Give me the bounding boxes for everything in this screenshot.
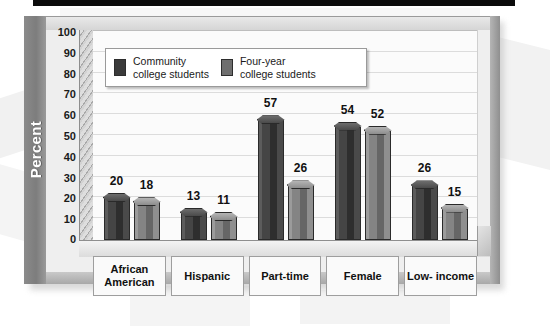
bar-value-label: 13 bbox=[187, 190, 200, 202]
bar-body bbox=[258, 120, 284, 240]
y-tick-30: 30 bbox=[64, 172, 76, 183]
bar-part-time-four-year[interactable]: 26 bbox=[288, 185, 314, 240]
y-tick-10: 10 bbox=[64, 214, 76, 225]
y-axis-tick-column: 100 90 80 70 60 50 40 30 20 10 0 bbox=[46, 30, 80, 240]
category-part-time: Part-time bbox=[249, 256, 322, 296]
bar-value-label: 11 bbox=[217, 194, 230, 206]
legend-label-community: Community college students bbox=[133, 55, 209, 80]
plot-top-edge bbox=[93, 30, 477, 31]
bar-body bbox=[134, 202, 160, 240]
bar-female-four-year[interactable]: 52 bbox=[365, 131, 391, 240]
legend-swatch-icon-four-year bbox=[221, 59, 233, 76]
y-tick-90: 90 bbox=[64, 47, 76, 58]
bar-value-label: 15 bbox=[448, 186, 461, 198]
bar-body bbox=[181, 213, 207, 240]
bar-african-american-community[interactable]: 20 bbox=[104, 198, 130, 240]
bar-body bbox=[442, 209, 468, 241]
bar-hispanic-four-year[interactable]: 11 bbox=[211, 217, 237, 240]
bar-body bbox=[412, 185, 438, 240]
frame-top-bevel bbox=[24, 16, 500, 31]
bar-group-low-income: 26 15 bbox=[401, 185, 478, 240]
gridline-60 bbox=[93, 113, 477, 114]
plot-region: 100 90 80 70 60 50 40 30 20 10 0 bbox=[46, 30, 490, 272]
bar-body bbox=[335, 127, 361, 240]
legend-label-four-year: Four-year college students bbox=[240, 55, 316, 80]
bar-part-time-community[interactable]: 57 bbox=[258, 120, 284, 240]
y-tick-60: 60 bbox=[64, 110, 76, 121]
plot-floor-slab bbox=[79, 240, 490, 257]
bar-value-label: 26 bbox=[294, 162, 307, 174]
x-axis-category-row: African American Hispanic Part-time Fema… bbox=[93, 256, 477, 296]
chart-3d-frame: Percent 100 90 80 70 60 50 40 30 20 10 0 bbox=[24, 16, 500, 284]
bar-value-label: 18 bbox=[140, 179, 153, 191]
legend-item-four-year[interactable]: Four-year college students bbox=[221, 55, 316, 80]
category-hispanic: Hispanic bbox=[171, 256, 244, 296]
bar-group-african-american: 20 18 bbox=[93, 198, 170, 240]
y-tick-20: 20 bbox=[64, 193, 76, 204]
bar-group-female: 54 52 bbox=[324, 127, 401, 240]
bar-value-label: 54 bbox=[341, 104, 354, 116]
category-african-american: African American bbox=[93, 256, 166, 296]
legend-swatch-icon-community bbox=[114, 59, 126, 76]
y-tick-0: 0 bbox=[70, 234, 76, 245]
y-tick-50: 50 bbox=[64, 131, 76, 142]
chart-legend: Community college students Four-year col… bbox=[105, 48, 367, 87]
bar-value-label: 57 bbox=[264, 97, 277, 109]
bar-low-income-four-year[interactable]: 15 bbox=[442, 209, 468, 241]
y-tick-100: 100 bbox=[58, 27, 76, 38]
category-low-income: Low- income bbox=[404, 256, 477, 296]
bar-hispanic-community[interactable]: 13 bbox=[181, 213, 207, 240]
frame-right-bevel bbox=[490, 16, 500, 284]
bar-value-label: 52 bbox=[371, 108, 384, 120]
bar-group-part-time: 57 26 bbox=[247, 120, 324, 240]
bar-body bbox=[365, 131, 391, 240]
bar-value-label: 26 bbox=[418, 162, 431, 174]
y-tick-80: 80 bbox=[64, 68, 76, 79]
bar-group-hispanic: 13 11 bbox=[170, 213, 247, 240]
bar-african-american-four-year[interactable]: 18 bbox=[134, 202, 160, 240]
y-axis-title: Percent bbox=[27, 121, 44, 178]
bar-body bbox=[288, 185, 314, 240]
bar-female-community[interactable]: 54 bbox=[335, 127, 361, 240]
bar-body bbox=[104, 198, 130, 240]
bar-value-label: 20 bbox=[110, 175, 123, 187]
category-female: Female bbox=[326, 256, 399, 296]
bar-low-income-community[interactable]: 26 bbox=[412, 185, 438, 240]
legend-item-community[interactable]: Community college students bbox=[114, 55, 209, 80]
plot-floor-right-bevel bbox=[477, 226, 491, 256]
top-rule-divider bbox=[33, 0, 515, 6]
gridline-70 bbox=[93, 92, 477, 93]
y-tick-40: 40 bbox=[64, 151, 76, 162]
y-tick-70: 70 bbox=[64, 89, 76, 100]
y-axis-title-band: Percent bbox=[24, 30, 46, 270]
